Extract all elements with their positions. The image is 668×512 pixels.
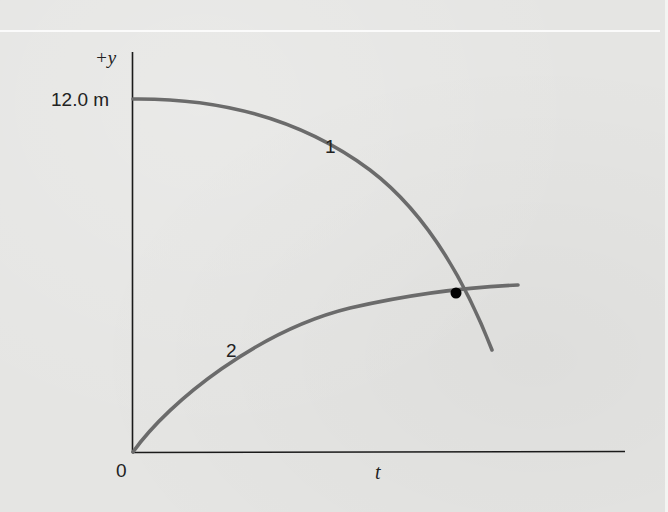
curve-1-label: 1 bbox=[325, 136, 336, 157]
y-axis-label: +y bbox=[95, 47, 117, 68]
y-tick-label-12m: 12.0 m bbox=[51, 89, 109, 110]
x-axis bbox=[132, 452, 625, 453]
origin-label: 0 bbox=[116, 460, 127, 481]
intersection-dot bbox=[451, 288, 462, 299]
curve-2-label: 2 bbox=[226, 340, 237, 361]
position-time-graph: +y 12.0 m 0 t 1 2 bbox=[0, 0, 668, 512]
x-axis-label: t bbox=[375, 461, 381, 483]
curve-2 bbox=[133, 285, 518, 452]
curve-1 bbox=[133, 99, 492, 350]
